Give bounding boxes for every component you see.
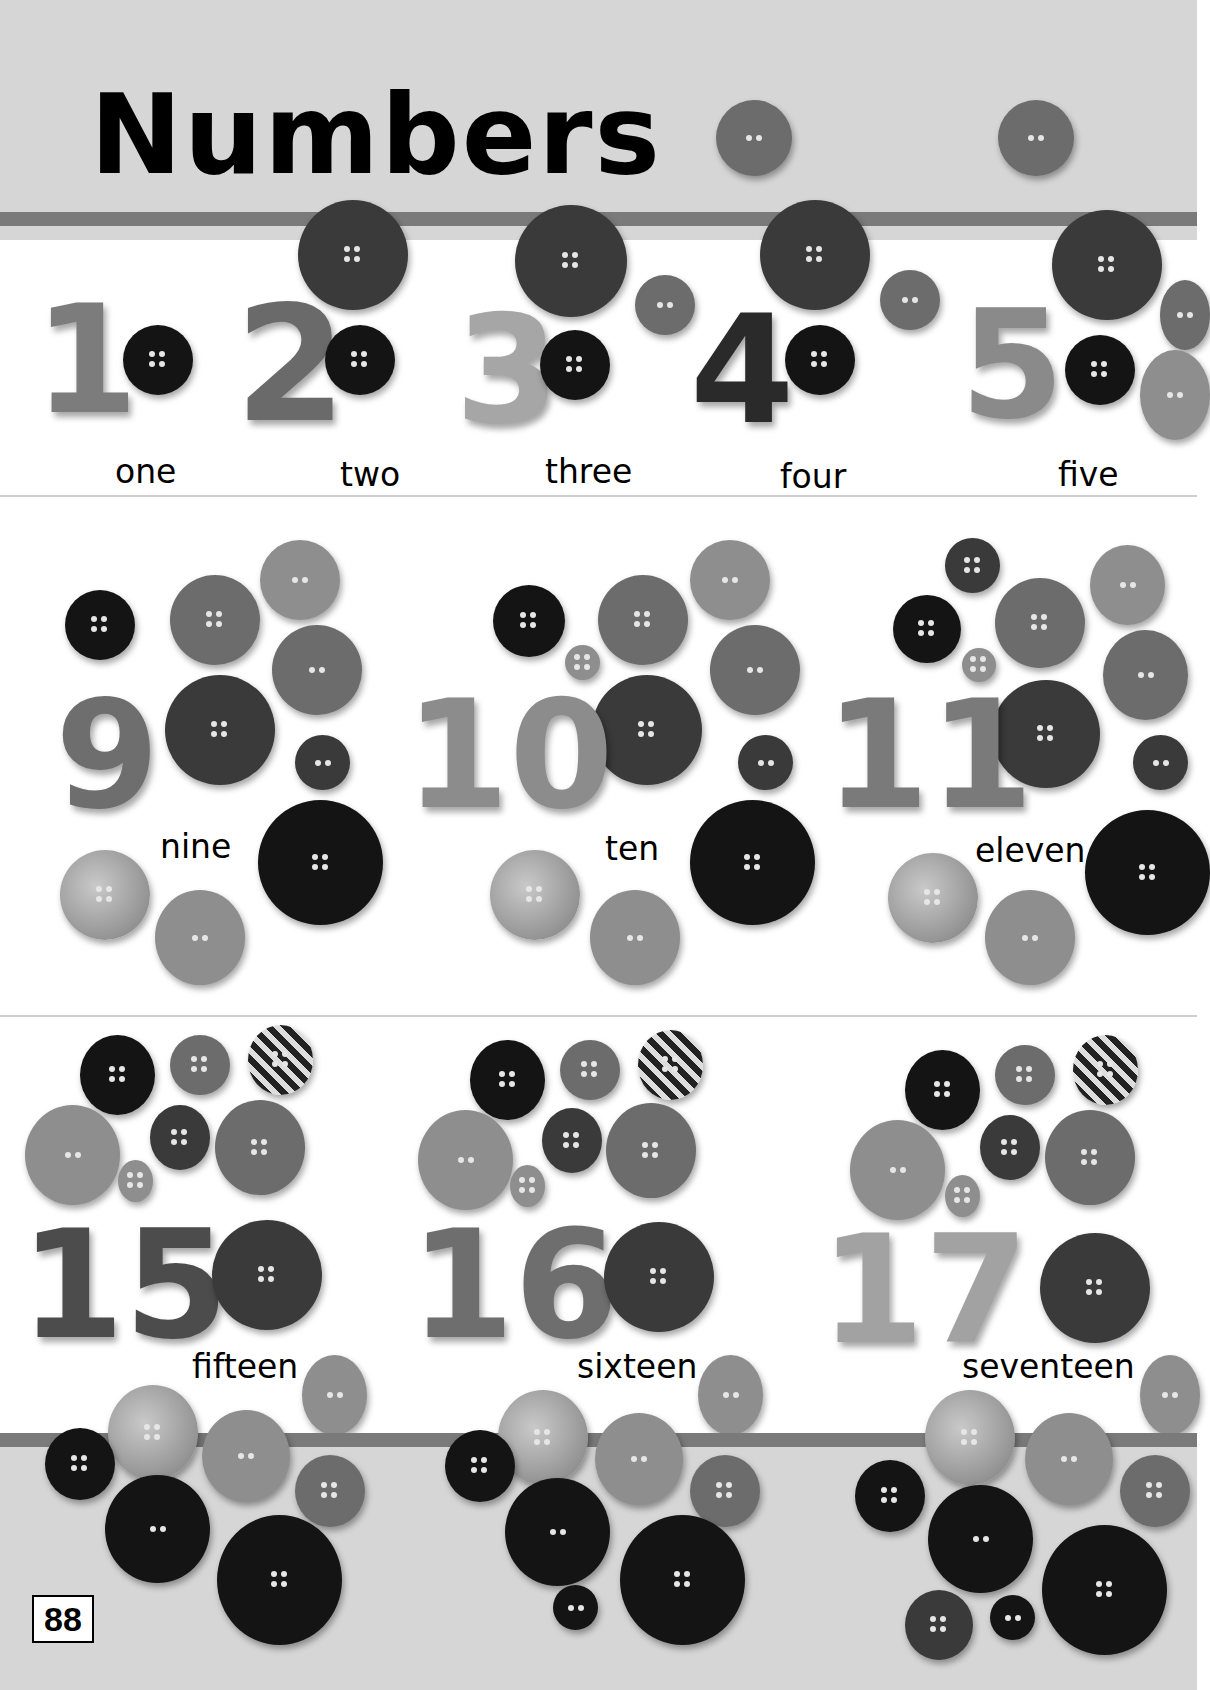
button-decoration (80, 1035, 155, 1115)
button-decoration (272, 625, 362, 715)
button-decoration (785, 325, 855, 395)
button-decoration (248, 1025, 313, 1095)
numeral-5: 5 (960, 290, 1064, 440)
button-decoration (25, 1105, 120, 1205)
button-decoration (155, 890, 245, 985)
button-decoration (1042, 1525, 1167, 1655)
button-decoration (716, 100, 792, 176)
button-decoration (165, 675, 275, 785)
button-decoration (738, 735, 793, 790)
word-eleven: eleven (975, 834, 1086, 867)
button-decoration (1160, 280, 1210, 350)
button-decoration (1133, 735, 1188, 790)
button-decoration (217, 1515, 342, 1645)
button-decoration (1140, 1355, 1200, 1435)
button-decoration (1085, 810, 1210, 935)
button-decoration (105, 1475, 210, 1583)
button-decoration (258, 800, 383, 925)
button-decoration (880, 270, 940, 330)
button-decoration (202, 1410, 290, 1502)
button-decoration (295, 1455, 365, 1527)
button-decoration (985, 890, 1075, 985)
button-decoration (998, 100, 1074, 176)
divider (0, 1015, 1197, 1017)
button-decoration (638, 1030, 703, 1100)
button-decoration (925, 1390, 1015, 1485)
button-decoration (540, 330, 610, 400)
numeral-11: 11 (825, 680, 1034, 830)
button-decoration (905, 1590, 973, 1660)
numeral-4: 4 (690, 295, 794, 445)
button-decoration (490, 850, 580, 940)
button-decoration (418, 1110, 513, 1210)
word-five: five (1058, 458, 1119, 491)
word-fifteen: fifteen (192, 1350, 298, 1383)
button-decoration (1073, 1035, 1138, 1105)
numeral-16: 16 (410, 1210, 619, 1360)
button-decoration (123, 325, 193, 395)
button-decoration (65, 590, 135, 660)
button-decoration (995, 1045, 1055, 1105)
button-decoration (118, 1160, 153, 1202)
button-decoration (150, 1105, 210, 1170)
button-decoration (1025, 1413, 1113, 1505)
word-one: one (115, 455, 176, 488)
button-decoration (212, 1220, 322, 1330)
button-decoration (598, 575, 688, 665)
button-decoration (470, 1040, 545, 1120)
button-decoration (493, 585, 565, 657)
button-decoration (905, 1050, 980, 1130)
button-decoration (595, 1413, 683, 1505)
button-decoration (170, 1035, 230, 1095)
button-decoration (1090, 545, 1165, 625)
button-decoration (45, 1428, 115, 1500)
button-decoration (1040, 1233, 1150, 1343)
button-decoration (215, 1100, 305, 1195)
button-decoration (1140, 350, 1210, 440)
button-decoration (710, 625, 800, 715)
button-decoration (1120, 1455, 1190, 1527)
button-decoration (108, 1385, 198, 1480)
button-decoration (590, 890, 680, 985)
button-decoration (690, 1455, 760, 1527)
divider (0, 495, 1197, 497)
button-decoration (990, 1595, 1035, 1640)
button-decoration (505, 1478, 610, 1586)
page-title: Numbers (90, 80, 662, 190)
button-decoration (170, 575, 260, 665)
button-decoration (295, 735, 350, 790)
button-decoration (698, 1355, 763, 1435)
button-decoration (690, 800, 815, 925)
button-decoration (60, 850, 150, 940)
button-decoration (893, 595, 961, 663)
word-four: four (780, 460, 846, 493)
word-nine: nine (160, 830, 231, 863)
word-sixteen: sixteen (577, 1350, 697, 1383)
numeral-15: 15 (20, 1210, 229, 1360)
button-decoration (553, 1585, 598, 1630)
button-decoration (690, 540, 770, 620)
word-seventeen: seventeen (962, 1350, 1135, 1383)
word-two: two (340, 458, 400, 491)
button-decoration (260, 540, 340, 620)
button-decoration (604, 1222, 714, 1332)
word-ten: ten (605, 832, 659, 865)
button-decoration (542, 1108, 602, 1173)
word-three: three (545, 455, 632, 488)
numeral-17: 17 (820, 1215, 1029, 1365)
button-decoration (606, 1103, 696, 1198)
button-decoration (855, 1460, 925, 1532)
numeral-10: 10 (405, 680, 614, 830)
button-decoration (995, 578, 1085, 668)
button-decoration (1052, 210, 1162, 320)
button-decoration (635, 275, 695, 335)
numeral-9: 9 (55, 680, 159, 830)
button-decoration (980, 1115, 1040, 1180)
button-decoration (302, 1355, 367, 1435)
button-decoration (928, 1485, 1033, 1593)
page-number: 88 (32, 1595, 94, 1643)
button-decoration (445, 1430, 515, 1502)
button-decoration (325, 325, 395, 395)
button-decoration (1045, 1110, 1135, 1205)
button-decoration (945, 538, 1000, 593)
